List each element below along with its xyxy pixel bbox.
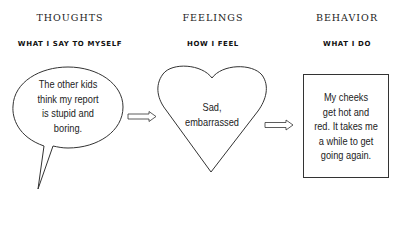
arrow-right-icon bbox=[128, 112, 156, 122]
arrow-right-icon bbox=[265, 120, 293, 130]
text-line: My cheeks bbox=[306, 90, 387, 105]
text-line: get hot and bbox=[306, 105, 387, 120]
text-line: red. It takes me bbox=[306, 119, 387, 134]
thoughts-text: The other kids think my report is stupid… bbox=[24, 77, 112, 135]
text-line: is stupid and bbox=[24, 106, 112, 121]
text-line: a while to get bbox=[306, 134, 387, 149]
text-line: boring. bbox=[24, 121, 112, 136]
text-line: Sad, bbox=[168, 100, 256, 115]
text-line: embarrassed bbox=[168, 115, 256, 130]
feelings-text: Sad, embarrassed bbox=[168, 100, 256, 129]
text-line: think my report bbox=[24, 92, 112, 107]
behavior-text: My cheeks get hot and red. It takes me a… bbox=[306, 90, 387, 163]
text-line: The other kids bbox=[24, 77, 112, 92]
text-line: going again. bbox=[306, 148, 387, 163]
